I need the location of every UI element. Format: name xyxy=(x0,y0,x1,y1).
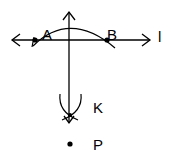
point-a xyxy=(32,37,37,42)
label-l: l xyxy=(158,28,161,45)
label-k: K xyxy=(93,99,103,116)
point-k xyxy=(68,113,72,117)
label-a: A xyxy=(42,26,52,43)
label-p: P xyxy=(93,136,103,153)
label-b: B xyxy=(107,26,117,43)
construction-diagram: A B l K P xyxy=(0,0,171,155)
point-p xyxy=(67,141,72,146)
